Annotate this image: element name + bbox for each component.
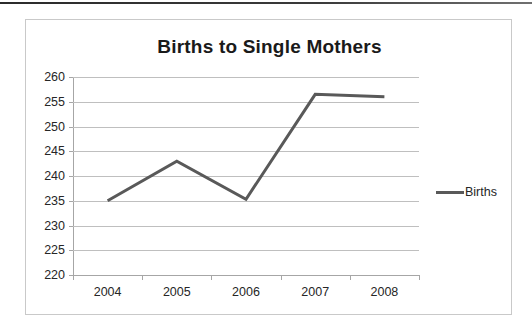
y-axis-label-230: 230 — [44, 219, 65, 233]
chart-screenshot: Births to Single Mothers 220225230235240… — [0, 0, 532, 330]
x-axis-label-2005: 2005 — [163, 285, 191, 299]
x-tick-end — [419, 275, 420, 280]
plot-area: 220225230235240245250255260 200420052006… — [73, 77, 419, 275]
y-axis-label-235: 235 — [44, 194, 65, 208]
chart-frame: Births to Single Mothers 220225230235240… — [25, 19, 512, 315]
chart-title: Births to Single Mothers — [26, 36, 513, 58]
legend: Births — [436, 185, 497, 199]
y-axis-label-250: 250 — [44, 120, 65, 134]
y-axis-label-240: 240 — [44, 169, 65, 183]
y-axis-label-220: 220 — [44, 268, 65, 282]
x-tick-2004 — [73, 275, 74, 280]
x-tick-2006 — [211, 275, 212, 280]
x-tick-2007 — [281, 275, 282, 280]
x-axis-label-2004: 2004 — [94, 285, 122, 299]
top-divider-rule — [0, 2, 532, 4]
x-axis-label-2008: 2008 — [370, 285, 398, 299]
y-axis-label-260: 260 — [44, 70, 65, 84]
x-tick-2005 — [142, 275, 143, 280]
x-tick-2008 — [350, 275, 351, 280]
y-axis-label-245: 245 — [44, 144, 65, 158]
x-axis-label-2006: 2006 — [232, 285, 260, 299]
y-axis-label-255: 255 — [44, 95, 65, 109]
series-line-births — [73, 77, 419, 275]
y-axis-label-225: 225 — [44, 243, 65, 257]
gridline-220 — [73, 275, 419, 276]
legend-label-births: Births — [465, 185, 497, 199]
x-axis-label-2007: 2007 — [301, 285, 329, 299]
legend-swatch-births — [436, 191, 464, 194]
